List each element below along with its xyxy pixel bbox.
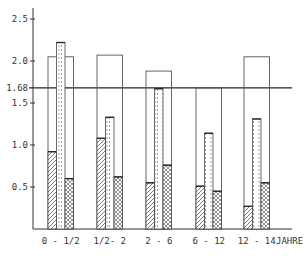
bar-hatched [146,183,155,229]
bar-cross-hatched [114,177,123,229]
bars [48,43,270,229]
bar-dotted [205,133,214,229]
bar-group [48,43,74,229]
y-tick-label: 1.0 [12,140,28,150]
bar-group [146,71,172,229]
bar-dotted [106,117,115,229]
bar-group [97,55,123,229]
y-tick-label: 1.5 [12,98,28,108]
bar-group [196,88,222,229]
bar-hatched [97,138,106,229]
bar-dotted [253,119,262,229]
bar-dotted [57,43,66,229]
x-axis-unit-label: JAHRE [276,236,303,246]
bar-dotted [155,89,164,229]
bar-cross-hatched [163,165,172,229]
y-tick-label: 2.5 [12,14,28,24]
bar-hatched [244,206,253,229]
bar-hatched [48,152,57,229]
bar-cross-hatched [261,183,270,229]
x-category-label: 0 - 1/2 [42,236,80,246]
bar-hatched [196,186,205,229]
x-category-label: 12 - 14 [238,236,276,246]
y-tick-label: 1.68 [6,83,28,93]
bar-cross-hatched [65,179,74,229]
x-category-label: 1/2- 2 [93,236,126,246]
bar-cross-hatched [213,191,222,229]
y-tick-label: 0.5 [12,182,28,192]
bar-chart: 0.51.01.51.682.02.50 - 1/21/2- 22 - 66 -… [0,0,307,256]
y-tick-label: 2.0 [12,56,28,66]
x-category-label: 6 - 12 [192,236,225,246]
bar-group [244,57,270,229]
x-category-label: 2 - 6 [145,236,172,246]
